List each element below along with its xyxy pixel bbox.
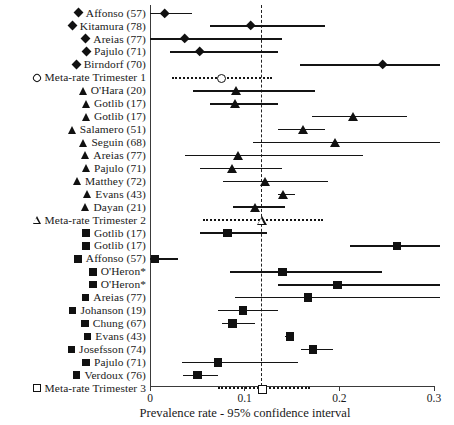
- point-estimate-square: [286, 332, 294, 340]
- point-estimate-square: [214, 358, 222, 366]
- x-axis-tick-label: 0: [130, 392, 170, 404]
- point-estimate-square: [393, 242, 401, 250]
- confidence-interval-line: [223, 181, 328, 183]
- confidence-interval-line: [210, 103, 278, 105]
- confidence-interval-line: [312, 116, 408, 118]
- point-estimate-triangle: [278, 190, 288, 199]
- confidence-interval-line: [150, 38, 282, 40]
- confidence-interval-line: [193, 90, 315, 92]
- plot-area: 00.10.20.3: [0, 0, 454, 425]
- x-axis-tick-label: 0.1: [225, 392, 265, 404]
- confidence-interval-line: [230, 271, 382, 273]
- confidence-interval-line: [182, 362, 297, 364]
- point-estimate-diamond: [378, 60, 388, 70]
- x-axis-title: Prevalence rate - 95% confidence interva…: [18, 406, 454, 421]
- reference-line: [261, 5, 262, 386]
- x-axis-tick: [339, 386, 340, 391]
- point-estimate-square-open: [258, 385, 267, 394]
- point-estimate-triangle: [250, 203, 260, 212]
- point-estimate-diamond: [180, 34, 190, 44]
- point-estimate-diamond-open: [217, 74, 226, 83]
- confidence-interval-line: [210, 25, 325, 27]
- forest-plot: Affonso (57)Kitamura (78)Areias (77)Paju…: [0, 0, 454, 425]
- confidence-interval-line: [253, 142, 439, 144]
- confidence-interval-line: [278, 284, 440, 286]
- point-estimate-triangle: [227, 164, 237, 173]
- confidence-interval-line: [200, 232, 267, 234]
- confidence-interval-line: [200, 168, 281, 170]
- x-axis-tick: [150, 386, 151, 391]
- point-estimate-square: [309, 345, 317, 353]
- point-estimate-triangle: [233, 151, 243, 160]
- confidence-interval-line: [170, 51, 278, 53]
- point-estimate-triangle: [330, 138, 340, 147]
- point-estimate-square: [278, 268, 286, 276]
- confidence-interval-line: [185, 155, 363, 157]
- point-estimate-triangle: [348, 112, 358, 121]
- point-estimate-triangle: [298, 125, 308, 134]
- x-axis-tick: [434, 386, 435, 391]
- confidence-interval-line: [150, 13, 192, 15]
- point-estimate-diamond: [245, 21, 255, 31]
- point-estimate-triangle: [260, 177, 270, 186]
- point-estimate-triangle-open: [257, 216, 267, 225]
- point-estimate-square: [151, 255, 159, 263]
- point-estimate-square: [333, 281, 341, 289]
- point-estimate-square: [239, 306, 247, 314]
- point-estimate-square: [223, 229, 231, 237]
- point-estimate-triangle: [230, 99, 240, 108]
- point-estimate-square: [304, 293, 312, 301]
- confidence-interval-line: [235, 297, 439, 299]
- point-estimate-triangle: [231, 86, 241, 95]
- x-axis-tick-label: 0.3: [414, 392, 454, 404]
- confidence-interval-line: [222, 323, 255, 325]
- point-estimate-square: [228, 319, 236, 327]
- y-axis-line: [150, 5, 151, 386]
- point-estimate-square: [193, 371, 201, 379]
- point-estimate-diamond: [160, 8, 170, 18]
- confidence-interval-line: [218, 310, 278, 312]
- confidence-interval-line: [300, 64, 440, 66]
- point-estimate-diamond: [195, 47, 205, 57]
- x-axis-tick-label: 0.2: [319, 392, 359, 404]
